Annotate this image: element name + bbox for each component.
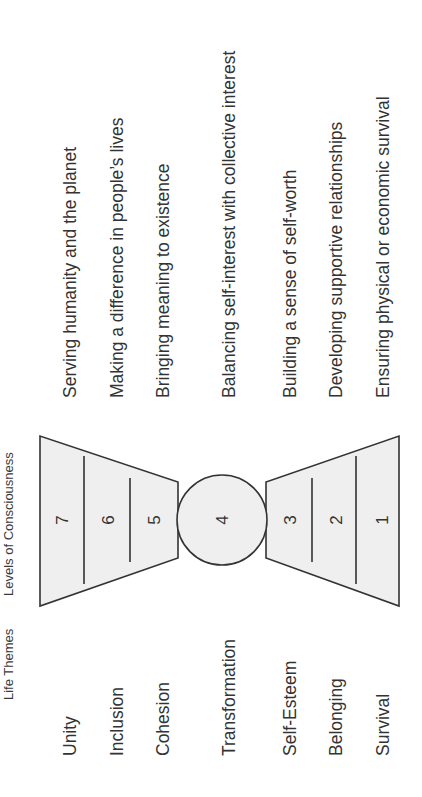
level-number-6: 6 <box>99 515 118 524</box>
description-1: Ensuring physical or economic survival <box>373 96 393 398</box>
header-life-themes: Life Themes <box>1 628 16 700</box>
rotated-diagram-group: Life Themes Levels of Consciousness 7 6 … <box>1 51 399 756</box>
level-number-5: 5 <box>145 515 164 524</box>
description-4: Balancing self-interest with collective … <box>219 51 239 398</box>
level-number-7: 7 <box>53 515 72 524</box>
theme-transformation: Transformation <box>219 639 239 756</box>
description-2: Developing supportive relationships <box>326 121 346 398</box>
theme-unity: Unity <box>60 716 80 756</box>
description-7: Serving humanity and the planet <box>60 147 80 398</box>
description-5: Bringing meaning to existence <box>153 164 173 398</box>
level-number-2: 2 <box>327 515 346 524</box>
description-3: Building a sense of self-worth <box>280 169 300 398</box>
theme-survival: Survival <box>373 694 393 756</box>
theme-inclusion: Inclusion <box>107 687 127 756</box>
theme-cohesion: Cohesion <box>153 682 173 756</box>
description-6: Making a difference in people’s lives <box>107 117 127 398</box>
level-number-4: 4 <box>213 515 232 524</box>
header-levels-of-consciousness: Levels of Consciousness <box>1 452 16 596</box>
level-number-3: 3 <box>281 515 300 524</box>
level-number-1: 1 <box>373 515 392 524</box>
levels-of-consciousness-diagram: Life Themes Levels of Consciousness 7 6 … <box>0 0 422 797</box>
theme-self-esteem: Self-Esteem <box>280 661 300 756</box>
theme-belonging: Belonging <box>326 678 346 756</box>
